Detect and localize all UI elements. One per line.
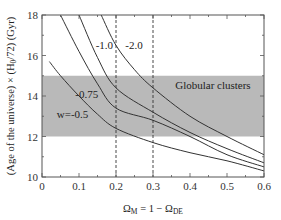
x-tick-label: 0.2 (109, 180, 123, 192)
annotation-label: -0.75 (75, 88, 98, 100)
y-tick-label: 18 (27, 9, 39, 21)
x-tick-label: 0.4 (183, 180, 197, 192)
chart: 00.10.20.30.40.50.61012141618 w=-0.5-0.7… (0, 0, 281, 220)
y-tick-label: 10 (27, 171, 39, 183)
y-tick-label: 12 (27, 131, 38, 143)
x-axis-title: ΩM = 1 − ΩDE (123, 203, 183, 216)
x-tick-label: 0.1 (72, 180, 86, 192)
annotation-label: w=-0.5 (57, 108, 89, 120)
x-tick-label: 0.5 (220, 180, 234, 192)
x-tick-label: 0 (39, 180, 45, 192)
x-tick-label: 0.6 (257, 180, 271, 192)
annotation-label: -1.0 (96, 39, 114, 51)
y-tick-label: 14 (27, 90, 39, 102)
y-tick-label: 16 (27, 50, 39, 62)
x-tick-label: 0.3 (146, 180, 160, 192)
annotation-label: Globular clusters (175, 79, 250, 91)
y-axis-title: (Age of the universe) × (H0/72) (Gyr) (5, 16, 18, 175)
annotation-label: -2.0 (125, 39, 143, 51)
